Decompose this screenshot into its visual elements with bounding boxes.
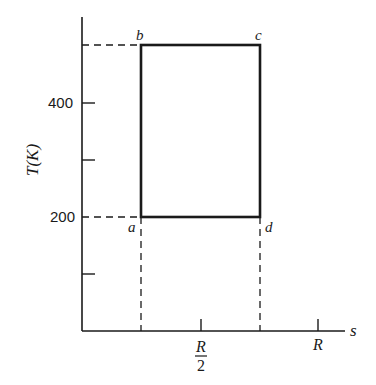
point-label-a: a [128, 219, 136, 235]
y-tick-label-200: 200 [50, 208, 75, 225]
x-tick-label-r-half-numerator: R [195, 338, 206, 355]
ts-diagram: 400 200 T(K) s R 2 R b c a d [0, 0, 376, 385]
point-label-c: c [255, 27, 262, 43]
y-ticks [82, 103, 95, 274]
x-tick-label-r: R [312, 336, 323, 353]
x-axis-label: s [350, 321, 357, 340]
point-label-b: b [136, 27, 144, 43]
cycle-rectangle [141, 45, 260, 217]
y-tick-label-400: 400 [48, 94, 73, 111]
y-axis-label: T(K) [23, 144, 42, 176]
x-tick-label-r-half-denominator: 2 [197, 357, 205, 374]
dashed-guides [82, 45, 260, 331]
point-label-d: d [265, 219, 273, 235]
